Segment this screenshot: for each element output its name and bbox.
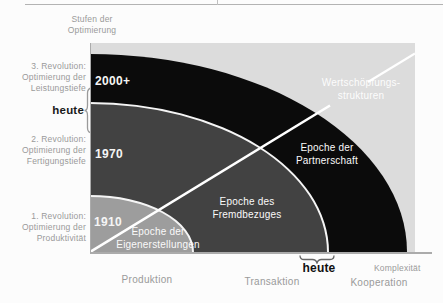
heute-label-left: heute xyxy=(0,104,84,116)
stage-2-line2: Optimierung der xyxy=(0,145,86,156)
stage-1-line2: Optimierung der xyxy=(0,222,86,233)
y-axis-title-line2: Optimierung xyxy=(42,25,142,36)
era-label-partnerschaft: Epoche der Partnerschaft xyxy=(277,142,377,167)
wert-line2: strukturen xyxy=(311,90,411,103)
y-axis-title-line1: Stufen der xyxy=(42,14,142,25)
era-label-eigenerstellungen: Epoche der Eigenerstellungen xyxy=(103,226,213,251)
stage-1-line1: 1. Revolution: xyxy=(0,211,86,222)
y-axis-stage-2: 2. Revolution: Optimierung der Fertigung… xyxy=(0,134,86,167)
top-rule-tick xyxy=(217,0,218,5)
diagram-canvas: Stufen der Optimierung 3. Revolution: Op… xyxy=(0,0,443,303)
x-axis-complexity-label: Komplexität xyxy=(374,263,421,273)
fremd-line2: Fremdbezuges xyxy=(197,209,297,222)
y-axis-title: Stufen der Optimierung xyxy=(42,14,142,36)
x-axis-label-produktion: Produktion xyxy=(97,274,197,285)
year-label-1970: 1970 xyxy=(95,147,123,161)
stage-1-line3: Produktivität xyxy=(0,233,86,244)
x-axis-label-transaktion: Transaktion xyxy=(222,276,322,287)
y-axis-stage-3: 3. Revolution: Optimierung der Leistungs… xyxy=(0,61,86,94)
stage-3-line1: 3. Revolution: xyxy=(0,61,86,72)
eigen-line2: Eigenerstellungen xyxy=(103,239,213,252)
stage-2-line3: Fertigungstiefe xyxy=(0,156,86,167)
plot-area: 2000+ 1970 1910 Epoche der Eigenerstellu… xyxy=(90,43,415,252)
top-rule xyxy=(25,4,443,5)
eigen-line1: Epoche der xyxy=(103,226,213,239)
partner-line2: Partnerschaft xyxy=(277,155,377,168)
stage-3-line3: Leistungstiefe xyxy=(0,83,86,94)
heute-label-bottom: heute xyxy=(297,261,341,275)
wert-line1: Wertschöpfungs- xyxy=(311,77,411,90)
year-label-2000: 2000+ xyxy=(95,74,130,88)
y-axis-stage-1: 1. Revolution: Optimierung der Produktiv… xyxy=(0,211,86,244)
era-label-fremdbezug: Epoche des Fremdbezuges xyxy=(197,196,297,221)
fremd-line1: Epoche des xyxy=(197,196,297,209)
x-axis-line xyxy=(90,252,432,254)
diagonal-line-label: Wertschöpfungs- strukturen xyxy=(311,77,411,102)
y-axis-line xyxy=(90,43,91,253)
stage-2-line1: 2. Revolution: xyxy=(0,134,86,145)
stage-3-line2: Optimierung der xyxy=(0,72,86,83)
x-axis-label-kooperation: Kooperation xyxy=(329,277,429,288)
partner-line1: Epoche der xyxy=(277,142,377,155)
